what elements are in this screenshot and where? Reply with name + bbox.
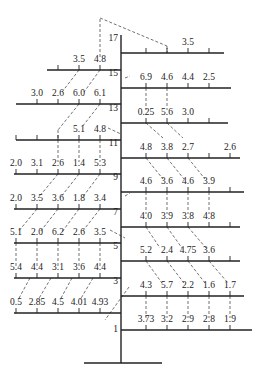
value-label: 5.7 xyxy=(161,280,173,290)
value-label: 4.6 xyxy=(140,176,152,186)
node-label-5: 5 xyxy=(113,241,118,251)
value-label: 4.6 xyxy=(182,176,194,186)
value-label: 2.6 xyxy=(52,158,64,168)
value-label: 4.3 xyxy=(140,280,152,290)
value-label: 3.1 xyxy=(31,158,43,168)
value-label: 3.2 xyxy=(161,314,173,324)
value-label: 4.4 xyxy=(31,262,43,272)
value-label: 3.6 xyxy=(52,193,64,203)
value-label: 3.5 xyxy=(182,37,194,47)
branch-lines xyxy=(14,35,252,363)
diagram-canvas: 173.5156.94.64.42.5130.255.63.0114.83.82… xyxy=(0,0,262,376)
value-label: 0.5 xyxy=(10,297,22,307)
value-label: 3.73 xyxy=(138,314,155,324)
dashed-connector xyxy=(110,230,125,238)
value-label: 2.85 xyxy=(29,297,46,307)
node-label-3: 3 xyxy=(113,276,118,286)
value-label: 3.0 xyxy=(31,88,43,98)
node-label-11: 11 xyxy=(109,138,118,148)
dashed-connectors xyxy=(16,18,230,320)
value-label: 1.6 xyxy=(203,280,215,290)
value-label: 5.3 xyxy=(94,158,106,168)
value-label: 4.5 xyxy=(52,297,64,307)
node-label-13: 13 xyxy=(109,103,119,113)
value-label: 2.5 xyxy=(203,72,215,82)
value-label: 6.2 xyxy=(52,227,64,237)
value-label: 4.4 xyxy=(94,262,106,272)
dashed-connector xyxy=(105,287,129,320)
value-label: 6.1 xyxy=(94,88,106,98)
value-label: 2.8 xyxy=(203,314,215,324)
value-label: 4.75 xyxy=(180,245,197,255)
value-label: 4.6 xyxy=(161,72,173,82)
value-label: 1.4 xyxy=(73,158,85,168)
value-label: 3.9 xyxy=(203,176,215,186)
value-label: 2.0 xyxy=(31,227,43,237)
value-label: 4.8 xyxy=(94,124,106,134)
value-label: 3.6 xyxy=(73,262,85,272)
branching-value-diagram: 173.5156.94.64.42.5130.255.63.0114.83.82… xyxy=(0,0,262,376)
value-label: 3.6 xyxy=(203,245,215,255)
value-label: 5.2 xyxy=(140,245,152,255)
value-label: 3.0 xyxy=(182,107,194,117)
value-label: 1.8 xyxy=(73,193,85,203)
dashed-connector xyxy=(167,123,183,138)
value-label: 4.8 xyxy=(203,211,215,221)
value-label: 2.6 xyxy=(73,227,85,237)
value-label: 2.6 xyxy=(224,142,236,152)
value-label: 6.0 xyxy=(73,88,85,98)
dashed-connector xyxy=(108,128,121,134)
value-label: 4.4 xyxy=(182,72,194,82)
dashed-connector xyxy=(125,76,130,78)
node-label-9: 9 xyxy=(113,172,118,182)
value-label: 3.5 xyxy=(94,227,106,237)
value-label: 1.7 xyxy=(224,280,236,290)
value-label: 3.6 xyxy=(161,176,173,186)
node-label-1: 1 xyxy=(113,324,118,334)
value-label: 6.9 xyxy=(140,72,152,82)
value-label: 0.25 xyxy=(138,107,155,117)
value-label: 4.8 xyxy=(94,54,106,64)
value-label: 2.2 xyxy=(182,280,194,290)
branch-values: 173.5156.94.64.42.5130.255.63.0114.83.82… xyxy=(10,33,236,334)
value-label: 3.5 xyxy=(73,54,85,64)
value-label: 2.6 xyxy=(52,88,64,98)
value-label: 3.8 xyxy=(161,142,173,152)
value-label: 4.0 xyxy=(140,211,152,221)
value-label: 3.8 xyxy=(182,211,194,221)
value-label: 3.4 xyxy=(94,193,106,203)
value-label: 4.93 xyxy=(92,297,109,307)
value-label: 5.6 xyxy=(161,107,173,117)
value-label: 3.5 xyxy=(31,193,43,203)
value-label: 5.1 xyxy=(73,124,85,134)
value-label: 1.9 xyxy=(224,314,236,324)
node-label-17: 17 xyxy=(109,33,119,43)
value-label: 2.4 xyxy=(161,245,173,255)
value-label: 4.01 xyxy=(71,297,88,307)
value-label: 4.8 xyxy=(140,142,152,152)
value-label: 2.0 xyxy=(10,158,22,168)
value-label: 2.7 xyxy=(182,142,194,152)
dashed-connector xyxy=(125,193,130,196)
value-label: 5.4 xyxy=(10,262,22,272)
value-label: 2.9 xyxy=(182,314,194,324)
value-label: 3.1 xyxy=(52,262,64,272)
value-label: 5.1 xyxy=(10,227,22,237)
value-label: 3.9 xyxy=(161,211,173,221)
node-label-7: 7 xyxy=(113,207,118,217)
dashed-connector xyxy=(146,123,163,138)
value-label: 2.0 xyxy=(10,193,22,203)
node-label-15: 15 xyxy=(109,68,119,78)
